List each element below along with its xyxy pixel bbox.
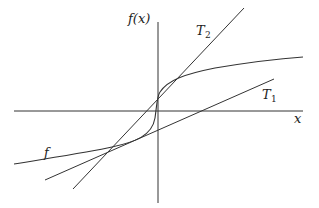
x-axis-label: x <box>294 111 302 126</box>
tangent-label-t2: T 2 <box>196 23 211 40</box>
tangent-label-t1: T 1 <box>262 87 277 104</box>
svg-text:2: 2 <box>205 30 211 40</box>
svg-text:1: 1 <box>271 94 277 104</box>
function-tangent-diagram: f(x) x f T 1 T 2 <box>0 0 319 208</box>
y-axis-label: f(x) <box>127 11 150 26</box>
